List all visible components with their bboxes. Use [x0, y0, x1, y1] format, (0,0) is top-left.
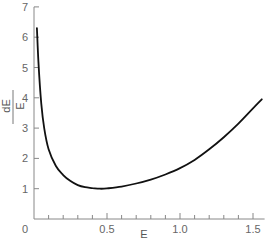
y-tick-label: 0: [22, 223, 28, 235]
x-tick-label: 1.0: [172, 223, 187, 235]
y-tick-label: 6: [22, 31, 28, 43]
y-tick-label: 7: [22, 1, 28, 13]
chart: 01234567 0.51.01.5 dE E E: [0, 0, 271, 242]
x-tick-label: 0.5: [99, 223, 114, 235]
y-tick-label: 2: [22, 152, 28, 164]
y-tick-label: 5: [22, 62, 28, 74]
y-tick-label: 1: [22, 183, 28, 195]
y-tick-label: 3: [22, 122, 28, 134]
y-tick-label: 4: [22, 92, 28, 104]
data-curve: [37, 28, 262, 189]
y-label-denominator: E: [14, 102, 26, 109]
x-tick-label: 1.5: [245, 223, 260, 235]
x-axis: 0.51.01.5: [34, 213, 265, 235]
x-axis-label: E: [140, 228, 147, 240]
y-label-numerator: dE: [0, 99, 12, 112]
